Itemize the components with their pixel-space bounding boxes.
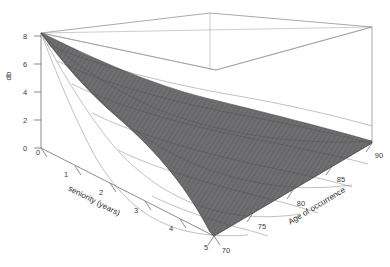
z-tick-label: 8	[23, 32, 27, 41]
y-tick-label: 75	[258, 222, 266, 231]
perspective-plot-canvas: 8 6 4 2 0 db 0 1 2 3 4 5	[0, 0, 390, 267]
y-axis-title: Age of occurrence	[287, 185, 348, 226]
x-tick-label: 1	[64, 170, 68, 179]
surface-plot-figure: 8 6 4 2 0 db 0 1 2 3 4 5	[0, 0, 390, 267]
z-tick-label: 4	[23, 88, 27, 97]
x-tick-label: 2	[99, 188, 103, 197]
x-tick-label: 0	[36, 148, 40, 157]
z-tick-label: 6	[23, 60, 27, 69]
z-axis-title: db	[4, 71, 13, 80]
y-tick-label: 70	[222, 246, 230, 255]
x-tick-label: 4	[169, 224, 173, 233]
y-tick-label: 85	[337, 175, 345, 184]
y-tick-label: 80	[297, 199, 305, 208]
x-tick-label: 3	[134, 206, 138, 215]
z-tick-label: 2	[23, 116, 27, 125]
x-tick-label: 5	[204, 243, 208, 252]
y-tick-label: 90	[375, 151, 383, 160]
axis-z: 8 6 4 2 0 db	[4, 32, 41, 153]
z-tick-label: 0	[23, 144, 27, 153]
